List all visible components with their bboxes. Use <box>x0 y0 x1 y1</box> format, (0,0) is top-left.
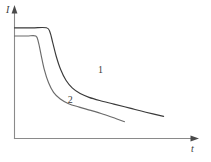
x-axis-label: t <box>191 143 194 154</box>
curve-series-1 <box>15 27 164 116</box>
y-axis-arrowhead <box>12 5 18 14</box>
curve-label-2: 2 <box>68 94 73 105</box>
curve-series-2 <box>15 36 125 122</box>
x-axis-arrowhead <box>191 136 200 142</box>
discharge-curve-figure: I t 1 2 <box>0 0 211 162</box>
y-axis-label: I <box>5 4 10 15</box>
plot-canvas: I t 1 2 <box>0 0 211 162</box>
curve-label-1: 1 <box>98 64 103 75</box>
